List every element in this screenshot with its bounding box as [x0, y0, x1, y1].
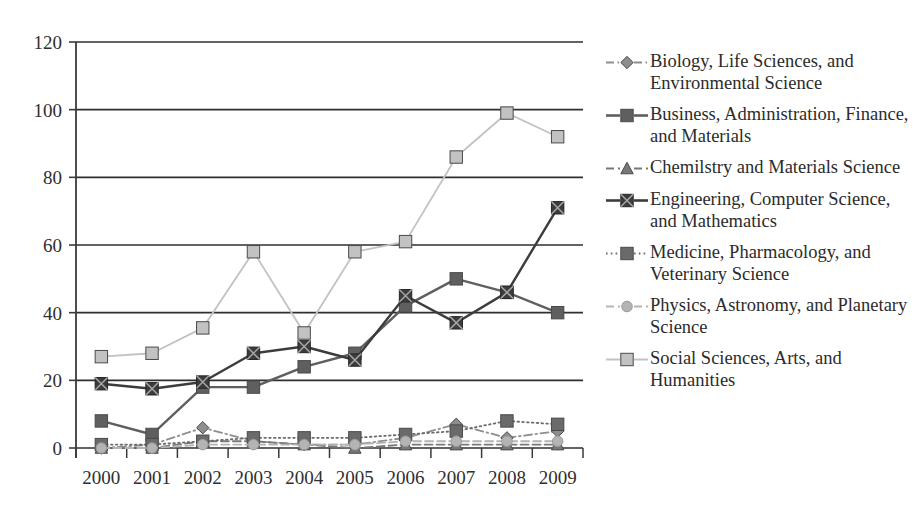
x-axis-tick-label: 2005	[336, 467, 374, 488]
data-point-marker-circle	[350, 439, 361, 450]
data-point-marker-square	[247, 381, 259, 393]
y-axis-ticks	[69, 42, 76, 448]
legend-key-square-icon	[604, 105, 650, 126]
data-point-marker-square	[501, 415, 513, 427]
legend-item[interactable]: Physics, Astronomy, and Planetary Scienc…	[604, 294, 918, 338]
data-point-marker-square	[450, 151, 462, 163]
x-axis-tick-label: 2002	[184, 467, 222, 488]
data-point-marker-circle	[622, 301, 633, 312]
data-point-marker-circle	[451, 436, 462, 447]
legend-item[interactable]: Business, Administration, Finance, and M…	[604, 103, 918, 147]
data-point-marker-square	[197, 322, 209, 334]
legend-item[interactable]: Medicine, Pharmacology, and Veterinary S…	[604, 241, 918, 285]
legend-item[interactable]: Engineering, Computer Science, and Mathe…	[604, 188, 918, 232]
line-chart: 020406080100120 200020012002200320042005…	[0, 0, 918, 516]
data-point-marker-square	[551, 418, 563, 430]
x-axis-tick-label: 2000	[82, 467, 120, 488]
data-series-layer	[95, 107, 564, 454]
x-axis-tick-label: 2009	[539, 467, 577, 488]
x-axis-tick-label: 2008	[488, 467, 526, 488]
data-point-marker-square	[621, 109, 633, 121]
legend-item-label: Engineering, Computer Science, and Mathe…	[650, 188, 912, 232]
x-axis-labels: 2000200120022003200420052006200720082009	[82, 467, 576, 488]
data-point-marker-circle	[502, 436, 513, 447]
legend-item-label: Social Sciences, Arts, and Humanities	[650, 347, 912, 391]
data-point-marker-square	[146, 347, 158, 359]
legend-item[interactable]: Social Sciences, Arts, and Humanities	[604, 347, 918, 391]
data-point-marker-square	[621, 247, 633, 259]
data-point-marker-circle	[552, 436, 563, 447]
data-point-marker-square	[95, 350, 107, 362]
data-point-marker-square	[621, 353, 633, 365]
data-point-marker-circle	[248, 439, 259, 450]
legend-key-x-square-icon	[604, 190, 650, 211]
data-point-marker-square	[349, 246, 361, 258]
series-line	[101, 208, 557, 389]
legend-key-triangle-icon	[604, 158, 650, 179]
x-axis-tick-label: 2001	[133, 467, 171, 488]
data-point-marker-circle	[96, 443, 107, 454]
data-series	[95, 202, 564, 395]
legend-key-diamond-icon	[604, 52, 650, 73]
data-point-marker-square	[247, 246, 259, 258]
data-point-marker-triangle	[621, 162, 633, 173]
legend-item-label: Physics, Astronomy, and Planetary Scienc…	[650, 294, 912, 338]
data-point-marker-square	[450, 273, 462, 285]
data-point-marker-square	[95, 415, 107, 427]
chart-legend: Biology, Life Sciences, and Environmenta…	[604, 50, 918, 400]
data-point-marker-diamond	[621, 56, 633, 68]
data-point-marker-square	[450, 425, 462, 437]
legend-item[interactable]: Chemilstry and Materials Science	[604, 156, 918, 179]
data-point-marker-circle	[400, 436, 411, 447]
x-axis-tick-label: 2003	[234, 467, 272, 488]
legend-key-square-icon	[604, 349, 650, 370]
legend-item-label: Chemilstry and Materials Science	[650, 156, 900, 178]
data-point-marker-square	[399, 235, 411, 247]
data-point-marker-square	[501, 107, 513, 119]
data-series	[95, 273, 564, 441]
legend-key-square-icon	[604, 243, 650, 264]
y-axis-tick-label: 80	[43, 167, 62, 188]
y-axis-tick-label: 0	[53, 438, 63, 459]
y-axis-tick-label: 40	[43, 303, 62, 324]
y-axis-labels: 020406080100120	[34, 32, 63, 459]
data-point-marker-circle	[299, 439, 310, 450]
data-point-marker-square	[551, 131, 563, 143]
y-axis-tick-label: 20	[43, 370, 62, 391]
data-series	[95, 107, 564, 363]
x-axis-tick-label: 2007	[437, 467, 475, 488]
legend-item[interactable]: Biology, Life Sciences, and Environmenta…	[604, 50, 918, 94]
y-axis-tick-label: 100	[34, 100, 63, 121]
y-axis-tick-label: 120	[34, 32, 63, 53]
legend-item-label: Medicine, Pharmacology, and Veterinary S…	[650, 241, 912, 285]
data-point-marker-diamond	[197, 422, 209, 434]
data-point-marker-square	[298, 361, 310, 373]
data-point-marker-circle	[147, 443, 158, 454]
legend-item-label: Biology, Life Sciences, and Environmenta…	[650, 50, 912, 94]
x-axis-tick-label: 2006	[387, 467, 425, 488]
legend-item-label: Business, Administration, Finance, and M…	[650, 103, 912, 147]
x-axis-tick-label: 2004	[285, 467, 324, 488]
data-point-marker-circle	[197, 439, 208, 450]
series-line	[101, 113, 557, 357]
data-point-marker-square	[298, 327, 310, 339]
data-point-marker-square	[551, 306, 563, 318]
legend-key-circle-icon	[604, 296, 650, 317]
y-axis-tick-label: 60	[43, 235, 62, 256]
